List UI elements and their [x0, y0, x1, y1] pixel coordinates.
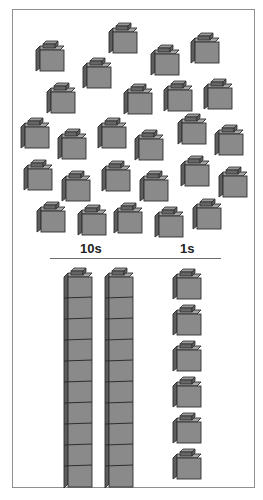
- unit-cube-icon: [218, 166, 248, 198]
- unit-cube-icon: [203, 78, 233, 110]
- unit-cube-icon: [123, 83, 153, 115]
- unit-cube-icon: [23, 159, 53, 191]
- unit-cube-icon: [101, 160, 131, 192]
- unit-cube-icon: [214, 124, 244, 156]
- unit-cube-icon: [61, 170, 91, 202]
- one-cube-icon: [172, 448, 202, 480]
- unit-cube-icon: [150, 44, 180, 76]
- column-divider: [50, 258, 221, 259]
- unit-cube-icon: [180, 155, 210, 187]
- unit-cube-icon: [77, 204, 107, 236]
- one-cube-icon: [172, 340, 202, 372]
- tens-label: 10s: [80, 241, 102, 256]
- one-cube-icon: [172, 268, 202, 300]
- unit-cube-icon: [163, 80, 193, 112]
- unit-cube-icon: [46, 82, 76, 114]
- one-cube-icon: [172, 412, 202, 444]
- unit-cube-icon: [177, 113, 207, 145]
- unit-cube-icon: [113, 202, 143, 234]
- unit-cube-icon: [36, 201, 66, 233]
- unit-cube-icon: [57, 128, 87, 160]
- unit-cube-icon: [190, 32, 220, 64]
- ones-label: 1s: [180, 241, 194, 256]
- unit-cube-icon: [134, 129, 164, 161]
- ten-rod-icon: [63, 267, 93, 489]
- unit-cube-icon: [20, 117, 50, 149]
- unit-cube-icon: [139, 170, 169, 202]
- ten-rod-icon: [104, 267, 134, 489]
- unit-cube-icon: [108, 22, 138, 54]
- unit-cube-icon: [192, 198, 222, 230]
- one-cube-icon: [172, 304, 202, 336]
- unit-cube-icon: [35, 40, 65, 72]
- one-cube-icon: [172, 376, 202, 408]
- unit-cube-icon: [97, 117, 127, 149]
- unit-cube-icon: [82, 57, 112, 89]
- unit-cube-icon: [154, 206, 184, 238]
